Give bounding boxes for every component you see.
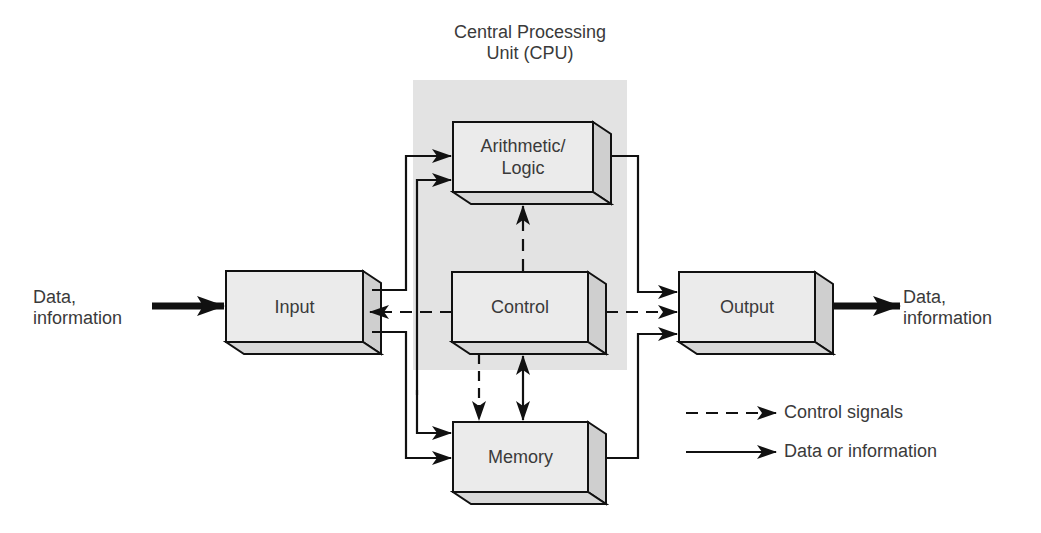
external-output-line1: Data, [903,287,992,308]
cpu-title-line2: Unit (CPU) [420,43,640,64]
external-input-line2: information [33,308,122,329]
control-box: Control [452,272,588,342]
alu-label-line2: Logic [501,157,544,179]
output-label: Output [720,296,774,318]
input-to-memory-line-2 [417,390,451,433]
memory-label: Memory [488,446,553,468]
external-output-line2: information [903,308,992,329]
output-box: Output [679,272,815,342]
alu-label-line1: Arithmetic/ [480,135,565,157]
control-label: Control [491,296,549,318]
memory-box: Memory [453,422,588,492]
input-label: Input [274,296,314,318]
external-input-line1: Data, [33,287,122,308]
cpu-title-line1: Central Processing [420,22,640,43]
legend-data-information-label: Data or information [784,441,937,462]
legend-control-signals-label: Control signals [784,402,903,423]
cpu-title: Central Processing Unit (CPU) [420,22,640,64]
arithmetic-logic-box: Arithmetic/ Logic [453,122,593,192]
external-input-label: Data, information [33,287,122,329]
input-box: Input [226,271,363,342]
external-output-label: Data, information [903,287,992,329]
